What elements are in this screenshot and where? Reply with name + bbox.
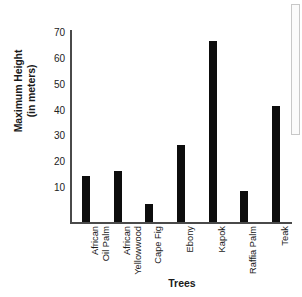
y-axis-tick-label-40: 40 [54, 104, 65, 115]
x-tick-line: Kapok [217, 226, 228, 297]
x-tick-line: Yellowwood [132, 226, 143, 297]
y-axis-line [70, 30, 72, 224]
x-tick-line: Ebony [185, 226, 196, 297]
y-axis-tick-label-30: 30 [54, 130, 65, 141]
x-tick-line: Oil Palm [100, 226, 111, 297]
x-tick-line: Teak [280, 226, 291, 297]
y-axis-tick-label-20: 20 [54, 156, 65, 167]
y-axis-tick-label-60: 60 [54, 52, 65, 63]
bar-ebony [177, 145, 185, 223]
x-axis-tick-label-raffia-palm: Raffia Palm [248, 226, 259, 297]
x-axis-tick-label-cape-fig: Cape Fig [153, 226, 164, 297]
x-tick-line: Cape Fig [153, 226, 164, 297]
x-axis-tick-label-kapok: Kapok [217, 226, 228, 297]
y-axis-title-line-1: Maximum Height [12, 16, 25, 166]
x-axis-tick-label-african-yellowwood: AfricanYellowwood [122, 226, 143, 297]
bar-chart-figure: Maximum Height (in meters) 1020304050607… [0, 0, 302, 297]
plot-area: 10203040506070 [70, 30, 292, 224]
x-axis-tick-label-ebony: Ebony [185, 226, 196, 297]
x-axis-tick-label-teak: Teak [280, 226, 291, 297]
x-axis-tick-label-african-oil-palm: AfricanOil Palm [90, 226, 111, 297]
vertical-scrollbar[interactable] [291, 4, 300, 135]
x-tick-line: African [122, 226, 133, 297]
x-axis-line [70, 222, 292, 224]
bar-cape-fig [145, 204, 153, 222]
y-axis-tick-label-70: 70 [54, 26, 65, 37]
y-axis-title-line-2: (in meters) [25, 16, 38, 166]
bar-african-oil-palm [82, 176, 90, 223]
y-axis-title: Maximum Height (in meters) [12, 16, 46, 166]
bar-african-yellowwood [114, 171, 122, 223]
y-axis-tick-label-10: 10 [54, 182, 65, 193]
y-axis-tick-label-50: 50 [54, 78, 65, 89]
bar-kapok [209, 41, 217, 222]
x-tick-line: Raffia Palm [248, 226, 259, 297]
bar-teak [272, 106, 280, 222]
x-tick-line: African [90, 226, 101, 297]
bar-raffia-palm [240, 191, 248, 222]
